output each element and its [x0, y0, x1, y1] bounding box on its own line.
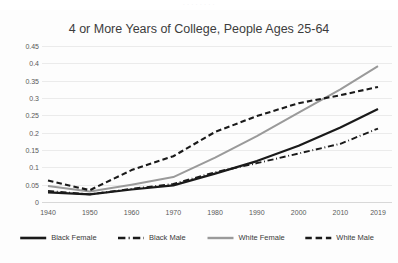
legend-label-black-female: Black Female: [51, 233, 96, 242]
x-tick-label: 2019: [370, 209, 386, 216]
series-line-black-male: [48, 129, 378, 195]
top-cropped-strip: · · · · · · · ·: [0, 0, 398, 10]
series-group: [48, 66, 378, 194]
x-tick-label: 2000: [291, 209, 307, 216]
y-tick-label: 0.15: [25, 147, 39, 154]
x-axis-ticks: 194019501960197019801990200020102019: [40, 209, 386, 216]
legend-label-white-female: White Female: [239, 233, 285, 242]
x-tick-label: 1990: [249, 209, 265, 216]
y-tick-label: 0.05: [25, 182, 39, 189]
x-tick-label: 1980: [207, 209, 223, 216]
legend-label-black-male: Black Male: [149, 233, 186, 242]
y-axis-ticks: 00.050.10.150.20.250.30.350.40.45: [25, 43, 39, 206]
x-tick-label: 1950: [82, 209, 98, 216]
series-line-white-female: [48, 66, 378, 191]
legend-group: Black FemaleBlack MaleWhite FemaleWhite …: [20, 233, 374, 242]
y-tick-label: 0.35: [25, 78, 39, 85]
x-tick-label: 1960: [124, 209, 140, 216]
legend-label-white-male: White Male: [336, 233, 374, 242]
x-tick-label: 1940: [40, 209, 56, 216]
top-fragment-text: · · · · · · · ·: [0, 0, 398, 8]
gridlines-group: [42, 47, 392, 203]
y-tick-label: 0.25: [25, 112, 39, 119]
y-tick-label: 0.4: [29, 60, 39, 67]
series-line-black-female: [48, 109, 378, 194]
chart-screenshot: · · · · · · · · 4 or More Years of Colle…: [0, 0, 398, 263]
y-tick-label: 0.2: [29, 130, 39, 137]
x-tick-label: 2010: [333, 209, 349, 216]
y-tick-label: 0.1: [29, 164, 39, 171]
y-tick-label: 0.3: [29, 95, 39, 102]
line-chart-svg: 00.050.10.150.20.250.30.350.40.45 194019…: [0, 10, 398, 263]
y-tick-label: 0: [35, 199, 39, 206]
y-tick-label: 0.45: [25, 43, 39, 50]
x-tick-label: 1970: [166, 209, 182, 216]
chart-card: 4 or More Years of College, People Ages …: [0, 10, 398, 263]
